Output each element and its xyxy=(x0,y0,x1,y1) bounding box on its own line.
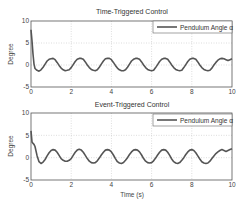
subplot-time-triggered: Time-Triggered Control 0246810 -50510 De… xyxy=(7,8,236,95)
plot-title: Time-Triggered Control xyxy=(96,8,168,16)
x-tick-label: 2 xyxy=(69,181,73,188)
x-tick-label: 4 xyxy=(110,88,114,95)
x-tick-label: 0 xyxy=(29,88,33,95)
x-tick-labels: 0246810 xyxy=(29,181,236,188)
y-tick-label: 0 xyxy=(25,154,29,161)
legend-label: Pendulum Angle α xyxy=(180,117,233,125)
y-tick-label: -5 xyxy=(23,83,29,90)
x-tick-label: 6 xyxy=(150,88,154,95)
y-axis-label: Degree xyxy=(7,43,15,65)
y-tick-label: 10 xyxy=(22,109,30,116)
x-tick-label: 8 xyxy=(190,181,194,188)
legend: Pendulum Angle α xyxy=(153,21,233,33)
y-tick-label: 0 xyxy=(25,61,29,68)
y-tick-labels: -50510 xyxy=(22,17,30,90)
x-tick-label: 10 xyxy=(228,88,236,95)
x-tick-label: 10 xyxy=(228,181,236,188)
y-tick-label: 5 xyxy=(25,39,29,46)
plot-title: Event-Triggered Control xyxy=(95,101,170,109)
x-axis-label: Time (s) xyxy=(120,191,144,199)
y-tick-label: -5 xyxy=(23,176,29,183)
x-tick-label: 2 xyxy=(69,88,73,95)
legend: Pendulum Angle α xyxy=(153,114,233,126)
x-tick-label: 0 xyxy=(29,181,33,188)
figure: Time-Triggered Control 0246810 -50510 De… xyxy=(0,0,249,204)
x-tick-labels: 0246810 xyxy=(29,88,236,95)
x-tick-label: 4 xyxy=(110,181,114,188)
legend-label: Pendulum Angle α xyxy=(180,24,233,32)
y-axis-label: Degree xyxy=(7,135,15,157)
y-tick-label: 5 xyxy=(25,132,29,139)
y-tick-labels: -50510 xyxy=(22,109,30,183)
x-tick-label: 8 xyxy=(190,88,194,95)
x-tick-label: 6 xyxy=(150,181,154,188)
subplot-event-triggered: Event-Triggered Control 0246810 -50510 D… xyxy=(7,101,236,199)
y-tick-label: 10 xyxy=(22,17,30,24)
pendulum-angle-line xyxy=(31,131,232,164)
